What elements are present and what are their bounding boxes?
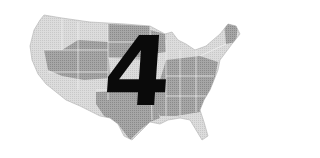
region-new-england	[224, 22, 238, 44]
numeral-overlay: 4	[101, 30, 167, 114]
